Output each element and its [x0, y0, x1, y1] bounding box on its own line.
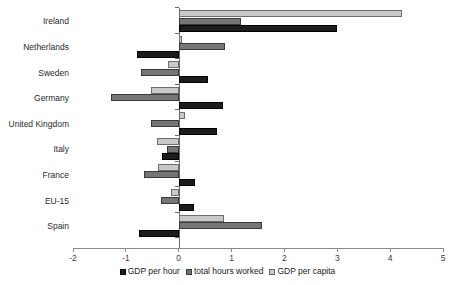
bar-group: France [0, 164, 455, 190]
legend-swatch-icon [186, 269, 192, 275]
bar-group: United Kingdom [0, 112, 455, 138]
legend-swatch-icon [120, 269, 126, 275]
legend-swatch-icon [269, 269, 275, 275]
bar [179, 179, 195, 186]
x-tick [178, 248, 179, 252]
bar [179, 102, 223, 109]
legend-label: GDP per capita [277, 266, 335, 276]
bar [111, 94, 179, 101]
category-tick [175, 7, 179, 8]
bar [158, 164, 179, 171]
bar [179, 43, 226, 50]
category-label: Netherlands [23, 42, 69, 52]
x-axis-line [73, 248, 443, 249]
x-tick-label: -2 [69, 253, 77, 263]
bar [141, 69, 179, 76]
x-tick-label: 3 [335, 253, 340, 263]
bar-group: Germany [0, 87, 455, 113]
legend-label: total hours worked [194, 266, 263, 276]
bar-group: Spain [0, 215, 455, 241]
x-tick-label: 0 [176, 253, 181, 263]
bar [144, 171, 179, 178]
bar-group: Ireland [0, 10, 455, 36]
bar [179, 25, 338, 32]
category-label: Sweden [38, 68, 69, 78]
bar [179, 36, 182, 43]
legend-label: GDP per hour [128, 266, 180, 276]
bar-chart: -2-1012345 IrelandNetherlandsSwedenGerma… [0, 0, 455, 285]
bar [179, 76, 208, 83]
x-tick [337, 248, 338, 252]
bar [157, 138, 179, 145]
bar-group: EU-15 [0, 189, 455, 215]
category-label: United Kingdom [9, 119, 69, 129]
bar-group: Netherlands [0, 36, 455, 62]
legend-item[interactable]: GDP per hour [120, 266, 180, 276]
bar [179, 18, 241, 25]
bar-group: Sweden [0, 61, 455, 87]
x-tick [284, 248, 285, 252]
x-tick [390, 248, 391, 252]
bar [179, 112, 185, 119]
bar [139, 230, 179, 237]
x-tick [73, 248, 74, 252]
chart-legend: GDP per hourtotal hours workedGDP per ca… [0, 266, 455, 276]
x-tick-label: 2 [282, 253, 287, 263]
category-label: Italy [53, 144, 69, 154]
x-tick-label: 1 [229, 253, 234, 263]
bar [179, 204, 194, 211]
bar [171, 189, 179, 196]
legend-item[interactable]: total hours worked [186, 266, 263, 276]
x-tick-label: 5 [441, 253, 446, 263]
category-label: Ireland [43, 16, 69, 26]
bar [167, 146, 179, 153]
x-tick [125, 248, 126, 252]
x-tick [443, 248, 444, 252]
bar-group: Italy [0, 138, 455, 164]
category-label: Germany [34, 93, 69, 103]
category-label: France [43, 170, 69, 180]
bar [179, 215, 224, 222]
bar [179, 10, 402, 17]
bar [162, 153, 179, 160]
category-label: Spain [47, 221, 69, 231]
category-label: EU-15 [45, 196, 69, 206]
bar [179, 222, 263, 229]
bar [151, 87, 178, 94]
legend-item[interactable]: GDP per capita [269, 266, 335, 276]
bar [161, 197, 179, 204]
bar [137, 51, 178, 58]
x-tick-label: 4 [388, 253, 393, 263]
x-tick-label: -1 [122, 253, 130, 263]
x-tick [231, 248, 232, 252]
bar [179, 128, 217, 135]
bar [151, 120, 178, 127]
bar [168, 61, 179, 68]
